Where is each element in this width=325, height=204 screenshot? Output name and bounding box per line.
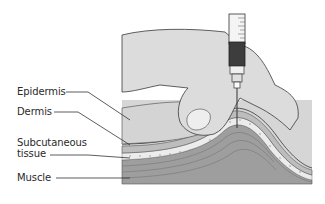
label-dermis: Dermis — [17, 106, 52, 117]
leader-lines — [50, 92, 130, 178]
label-muscle: Muscle — [17, 172, 51, 183]
label-subcutaneous-line1: Subcutaneous — [17, 137, 87, 148]
label-epidermis: Epidermis — [17, 86, 66, 97]
leader-epidermis — [66, 92, 130, 120]
label-subcutaneous-line2: tissue — [17, 148, 87, 159]
label-subcutaneous: Subcutaneous tissue — [17, 137, 87, 159]
